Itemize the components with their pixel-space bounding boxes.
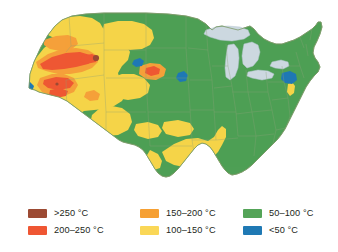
map-area [0,0,338,200]
legend-column-0: >250 °C 200–250 °C [28,206,104,240]
geothermal-map-figure: >250 °C 200–250 °C 150–200 °C 100–150 °C… [0,0,338,252]
legend-label-under-50c: <50 °C [269,225,298,236]
legend-label-200-250c: 200–250 °C [54,225,104,236]
legend-label-150-200c: 150–200 °C [166,208,216,219]
legend-swatch-50-100c [243,209,262,218]
map-legend: >250 °C 200–250 °C 150–200 °C 100–150 °C… [0,201,338,252]
us-geothermal-map [0,0,338,200]
legend-item-50-100c: 50–100 °C [243,206,313,220]
legend-label-100-150c: 100–150 °C [166,225,216,236]
legend-item-over-250c: >250 °C [28,206,104,220]
legend-swatch-under-50c [243,226,262,235]
legend-item-100-150c: 100–150 °C [140,223,216,237]
legend-swatch-150-200c [140,209,159,218]
legend-column-1: 150–200 °C 100–150 °C [140,206,216,240]
legend-item-under-50c: <50 °C [243,223,313,237]
legend-column-2: 50–100 °C <50 °C [243,206,313,240]
legend-item-200-250c: 200–250 °C [28,223,104,237]
legend-item-150-200c: 150–200 °C [140,206,216,220]
legend-label-50-100c: 50–100 °C [269,208,313,219]
legend-swatch-200-250c [28,226,47,235]
legend-swatch-100-150c [140,226,159,235]
legend-swatch-over-250c [28,209,47,218]
legend-label-over-250c: >250 °C [54,208,88,219]
